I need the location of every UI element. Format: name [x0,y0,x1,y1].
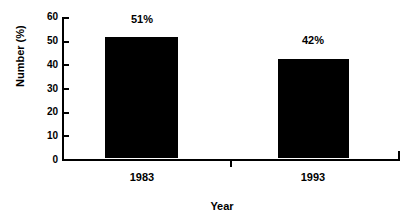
y-axis-tick-60 [64,17,69,19]
y-axis-tick-20 [64,112,69,114]
y-axis-tick-30 [64,88,69,90]
x-axis-title: Year [0,200,416,212]
bar-chart: Number (%) 60 50 40 30 20 10 0 51% 42% 1… [0,0,416,224]
bar-1983 [105,37,178,158]
y-tick-label-50: 50 [34,36,58,46]
y-axis-title-label: Number (%) [14,25,26,87]
y-tick-label-0: 0 [34,155,58,165]
y-axis-tick-0 [64,159,69,161]
plot-area [62,17,400,160]
y-tick-label-30: 30 [34,84,58,94]
y-axis-title: Number (%) [14,0,26,40]
x-axis-title-label: Year [210,200,233,212]
y-tick-label-60: 60 [34,12,58,22]
bar-value-label-1993: 42% [283,35,343,46]
x-category-label-1993: 1993 [283,172,343,183]
bar-value-label-1983: 51% [112,14,172,25]
y-tick-label-40: 40 [34,60,58,70]
bar-1993 [278,59,349,158]
y-tick-label-10: 10 [34,131,58,141]
x-axis-category-divider-tick [230,161,232,167]
y-axis-tick-50 [64,41,69,43]
x-category-label-1983: 1983 [112,172,172,183]
x-axis-end-cap [398,151,400,160]
y-axis-tick-10 [64,135,69,137]
y-axis-tick-40 [64,64,69,66]
y-tick-label-20: 20 [34,107,58,117]
